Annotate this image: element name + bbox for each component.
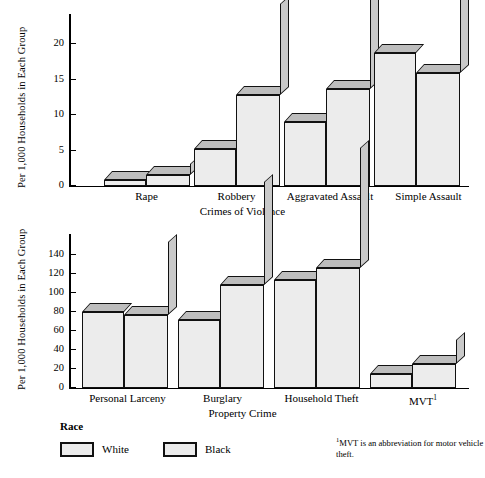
y-ticklabel-bottom-60: 60 <box>33 325 64 335</box>
legend-swatch-white <box>60 442 94 457</box>
chart-panel-violence: Per 1,000 Households in Each Group 0 5 1… <box>0 0 485 210</box>
bar-black-simple-assault <box>416 52 460 186</box>
chart-panel-property: Per 1,000 Households in Each Group 0 20 … <box>0 212 485 412</box>
y-ticklabel-bottom-0: 0 <box>38 382 64 392</box>
y-tick-bottom-60 <box>70 330 76 331</box>
plot-area-top: 0 5 10 15 20 <box>0 0 485 210</box>
bar-side-face <box>264 174 273 285</box>
bar-white-robbery <box>194 112 236 186</box>
y-tick-top-0 <box>70 185 76 186</box>
bar-front <box>412 364 456 388</box>
y-ticklabel-top-20: 20 <box>33 38 64 48</box>
legend-label-white: White <box>102 443 129 455</box>
y-tick-top-15 <box>70 79 76 80</box>
x-category-label-mvt: MVT1 <box>378 392 468 407</box>
y-tick-bottom-100 <box>70 292 76 293</box>
x-category-label-simple-assault: Simple Assault <box>376 190 481 202</box>
bar-front <box>220 285 264 388</box>
bar-front <box>284 122 326 186</box>
y-ticklabel-top-10: 10 <box>33 109 64 119</box>
bar-front <box>82 312 124 388</box>
y-ticklabel-bottom-40: 40 <box>33 344 64 354</box>
legend-swatch-black <box>163 442 197 457</box>
bar-front <box>194 149 236 186</box>
bar-white-burglary <box>178 310 220 388</box>
x-category-label-household-theft: Household Theft <box>264 392 379 404</box>
bar-side-face <box>360 140 369 268</box>
y-ticklabel-top-15: 15 <box>33 74 64 84</box>
footnote: 1MVT is an abbreviation for motor vehicl… <box>336 434 484 460</box>
bar-front <box>104 180 146 186</box>
bar-front <box>374 53 416 186</box>
y-tick-bottom-120 <box>70 273 76 274</box>
bar-white-simple-assault <box>374 32 416 186</box>
y-tick-top-10 <box>70 114 76 115</box>
y-ticklabel-bottom-140: 140 <box>28 249 64 259</box>
y-tick-bottom-40 <box>70 349 76 350</box>
bar-side-face <box>168 234 177 315</box>
y-ticklabel-top-0: 0 <box>38 180 64 190</box>
y-ticklabel-bottom-120: 120 <box>28 268 64 278</box>
y-tick-top-5 <box>70 150 76 151</box>
bar-front <box>370 374 412 388</box>
x-category-label-mvt-text: MVT <box>409 395 433 407</box>
bar-front <box>124 315 168 388</box>
bar-white-mvt <box>370 364 412 388</box>
y-tick-bottom-20 <box>70 368 76 369</box>
bar-side-face <box>460 0 469 73</box>
y-tick-bottom-80 <box>70 311 76 312</box>
y-tick-bottom-0 <box>70 387 76 388</box>
y-axis-line-top <box>69 14 71 187</box>
legend-label-black: Black <box>205 443 231 455</box>
y-ticklabel-bottom-80: 80 <box>33 306 64 316</box>
bar-black-burglary <box>220 275 264 388</box>
y-tick-bottom-140 <box>70 254 76 255</box>
x-category-label-rape: Rape <box>99 190 194 202</box>
plot-area-bottom: 0 20 40 60 80 100 120 140 <box>0 212 485 412</box>
x-category-label-personal-larceny: Personal Larceny <box>70 392 185 404</box>
y-tick-top-20 <box>70 43 76 44</box>
bar-white-household-theft <box>274 270 316 388</box>
bar-chart-figure: Per 1,000 Households in Each Group 0 5 1… <box>0 0 485 478</box>
bar-front <box>316 268 360 388</box>
bar-side-face <box>456 332 465 364</box>
y-ticklabel-bottom-100: 100 <box>28 287 64 297</box>
bar-black-household-theft <box>316 258 360 388</box>
bar-front <box>274 280 316 388</box>
bar-front <box>416 73 460 186</box>
x-category-label-burglary: Burglary <box>170 392 275 404</box>
y-ticklabel-bottom-20: 20 <box>33 363 64 373</box>
bar-side-face <box>280 0 289 95</box>
bar-black-rape <box>146 152 190 186</box>
bar-white-rape <box>104 160 146 186</box>
bar-front <box>236 95 280 186</box>
bar-black-robbery <box>236 60 280 186</box>
bar-black-personal-larceny <box>124 305 168 388</box>
y-ticklabel-top-5: 5 <box>38 145 64 155</box>
x-category-label-mvt-superscript: 1 <box>433 393 437 402</box>
legend-title: Race <box>60 420 83 432</box>
bar-front <box>146 175 190 186</box>
bar-white-aggravated-assault <box>284 85 326 186</box>
bar-black-mvt <box>412 354 456 388</box>
bar-front <box>178 320 220 388</box>
bar-white-personal-larceny <box>82 302 124 388</box>
footnote-text: MVT is an abbreviation for motor vehicle… <box>336 438 483 459</box>
x-category-label-aggravated-assault: Aggravated Assault <box>270 190 390 202</box>
